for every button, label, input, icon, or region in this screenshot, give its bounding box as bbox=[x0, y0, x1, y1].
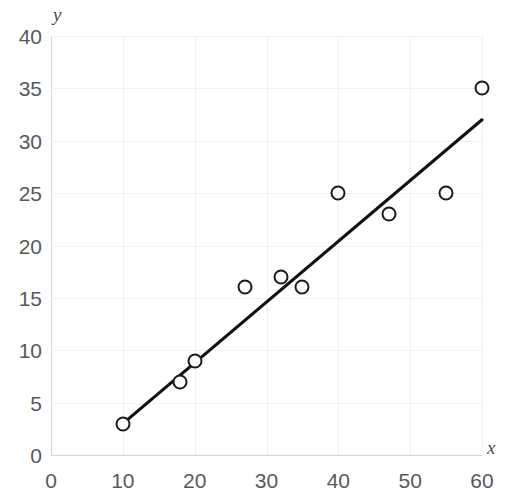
data-point-marker bbox=[295, 280, 310, 295]
y-tick-label: 5 bbox=[0, 392, 42, 413]
data-point-marker bbox=[187, 353, 202, 368]
x-tick-label: 0 bbox=[45, 470, 57, 491]
gridline-vertical bbox=[410, 36, 411, 455]
data-point-marker bbox=[439, 186, 454, 201]
x-axis-line bbox=[51, 455, 482, 456]
gridline-vertical bbox=[123, 36, 124, 455]
y-axis-title: y bbox=[53, 4, 61, 26]
x-tick-label: 30 bbox=[255, 470, 278, 491]
gridline-vertical bbox=[482, 36, 483, 455]
data-point-marker bbox=[173, 374, 188, 389]
x-tick-label: 40 bbox=[327, 470, 350, 491]
data-point-marker bbox=[381, 207, 396, 222]
x-axis-title: x bbox=[487, 437, 495, 459]
y-tick-label: 30 bbox=[0, 130, 42, 151]
y-tick-label: 10 bbox=[0, 340, 42, 361]
y-tick-label: 35 bbox=[0, 78, 42, 99]
scatter-plot-figure: 0510152025303540 0102030405060 y x bbox=[0, 0, 508, 502]
y-tick-label: 15 bbox=[0, 287, 42, 308]
y-tick-label: 25 bbox=[0, 183, 42, 204]
x-tick-label: 10 bbox=[111, 470, 134, 491]
plot-area bbox=[51, 36, 482, 455]
y-tick-label: 20 bbox=[0, 235, 42, 256]
data-point-marker bbox=[331, 186, 346, 201]
data-point-marker bbox=[273, 269, 288, 284]
x-tick-label: 20 bbox=[183, 470, 206, 491]
y-tick-label: 40 bbox=[0, 26, 42, 47]
data-point-marker bbox=[115, 416, 130, 431]
gridline-vertical bbox=[338, 36, 339, 455]
gridline-vertical bbox=[195, 36, 196, 455]
y-tick-label: 0 bbox=[0, 445, 42, 466]
gridline-vertical bbox=[267, 36, 268, 455]
x-tick-label: 60 bbox=[470, 470, 493, 491]
x-tick-label: 50 bbox=[398, 470, 421, 491]
data-point-marker bbox=[237, 280, 252, 295]
data-point-marker bbox=[475, 81, 490, 96]
